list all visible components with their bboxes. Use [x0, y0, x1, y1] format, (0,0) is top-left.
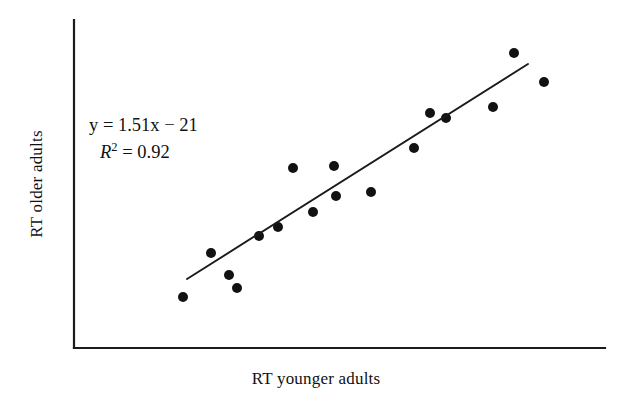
data-point: [425, 108, 435, 118]
plot-canvas: y = 1.51x − 21 R2 = 0.92 RT younger adul…: [0, 0, 635, 406]
x-axis-title: RT younger adults: [252, 369, 381, 388]
regression-trendline: [187, 64, 528, 279]
scatter-plot-figure: y = 1.51x − 21 R2 = 0.92 RT younger adul…: [0, 0, 635, 406]
r-squared-label: R2 = 0.92: [99, 140, 170, 162]
r-squared-value: 0.92: [137, 142, 169, 162]
y-axis-title: RT older adults: [27, 130, 46, 237]
data-point: [488, 102, 498, 112]
r-squared-equals: =: [118, 142, 138, 162]
data-point: [178, 292, 188, 302]
data-point: [232, 283, 242, 293]
data-point: [331, 191, 341, 201]
data-point: [539, 77, 549, 87]
r-squared-symbol: R: [99, 142, 111, 162]
data-point: [308, 207, 318, 217]
data-point: [409, 143, 419, 153]
data-point: [224, 270, 234, 280]
regression-equation-label: y = 1.51x − 21: [89, 115, 198, 135]
equation-equals: =: [98, 115, 118, 135]
equation-expression: 1.51x − 21: [118, 115, 198, 135]
data-point: [206, 248, 216, 258]
data-point: [366, 187, 376, 197]
data-point: [329, 161, 339, 171]
data-point: [509, 48, 519, 58]
data-point: [288, 163, 298, 173]
